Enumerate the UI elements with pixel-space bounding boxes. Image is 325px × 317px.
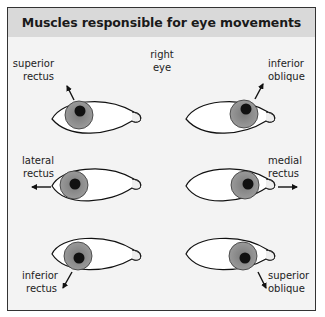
caruncle: [132, 179, 141, 189]
caruncle: [266, 179, 275, 189]
svg-text:right: right: [150, 49, 174, 60]
svg-text:rectus: rectus: [23, 168, 54, 179]
svg-text:lateral: lateral: [22, 155, 54, 166]
arrow-up-left-icon: [67, 86, 74, 100]
caruncle: [132, 112, 141, 122]
pupil: [241, 104, 252, 115]
caruncle: [132, 250, 141, 260]
pupil: [243, 179, 254, 190]
svg-text:superior: superior: [268, 270, 310, 281]
svg-text:rectus: rectus: [26, 283, 57, 294]
arrow-down-left-icon: [63, 272, 72, 288]
eye-medial-rectus: medial rectus: [186, 155, 302, 201]
eye-inferior-oblique: inferior oblique: [186, 58, 305, 133]
arrow-up-right-icon: [255, 84, 263, 99]
eye-inferior-rectus: inferior rectus: [22, 238, 141, 294]
eye-superior-oblique: superior oblique: [186, 238, 310, 294]
eye-movement-diagram: right eye superior rectus inferior obliq…: [0, 0, 325, 317]
svg-text:inferior: inferior: [268, 58, 305, 69]
svg-text:eye: eye: [153, 62, 171, 73]
svg-text:rectus: rectus: [23, 71, 54, 82]
svg-text:inferior: inferior: [22, 270, 59, 281]
right-eye-label: right eye: [150, 49, 174, 73]
svg-text:medial: medial: [268, 155, 302, 166]
caruncle: [266, 112, 275, 122]
pupil: [75, 106, 86, 117]
eye-lateral-rectus: lateral rectus: [22, 155, 141, 201]
eye-outline: [186, 169, 275, 201]
caruncle: [266, 250, 275, 260]
svg-text:superior: superior: [13, 58, 55, 69]
svg-text:oblique: oblique: [268, 283, 305, 294]
pupil: [70, 179, 81, 190]
svg-text:rectus: rectus: [268, 168, 299, 179]
eye-superior-rectus: superior rectus: [13, 58, 141, 133]
svg-text:oblique: oblique: [268, 71, 305, 82]
pupil: [240, 253, 251, 264]
pupil: [74, 253, 85, 264]
arrow-down-right-icon: [258, 272, 266, 288]
